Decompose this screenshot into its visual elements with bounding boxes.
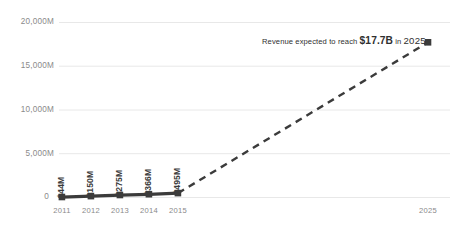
data-label-2014: $366M: [144, 169, 153, 196]
x-axis-tick-2011: 2011: [47, 207, 77, 215]
y-axis-tick-15000: 15,000M: [0, 62, 54, 70]
data-label-2011: $44M: [57, 177, 66, 199]
callout-value: $17.7B: [360, 35, 393, 46]
revenue-projection-chart: 20,000M 15,000M 10,000M 5,000M 0 2011 20…: [0, 0, 455, 230]
projection-callout: Revenue expected to reach $17.7B in 2025: [262, 31, 426, 47]
y-axis-tick-20000: 20,000M: [0, 18, 54, 26]
data-label-2015: $495M: [173, 168, 182, 195]
y-axis-tick-5000: 5,000M: [0, 150, 54, 158]
x-axis-tick-2012: 2012: [76, 207, 106, 215]
x-axis-tick-2025: 2025: [413, 207, 443, 215]
callout-year: 2025: [404, 35, 426, 46]
x-axis-tick-2014: 2014: [134, 207, 164, 215]
x-axis-tick-2013: 2013: [105, 207, 135, 215]
projection-dashed-line: [178, 42, 428, 193]
data-label-2012: $150M: [86, 171, 95, 198]
x-axis-tick-2015: 2015: [163, 207, 193, 215]
data-label-2013: $275M: [115, 170, 124, 197]
callout-prefix: Revenue expected to reach: [262, 37, 360, 46]
projected-revenue-series: [178, 39, 431, 193]
y-axis-tick-10000: 10,000M: [0, 106, 54, 114]
callout-middle: in: [393, 37, 404, 46]
y-axis-tick-0: 0: [0, 193, 49, 201]
